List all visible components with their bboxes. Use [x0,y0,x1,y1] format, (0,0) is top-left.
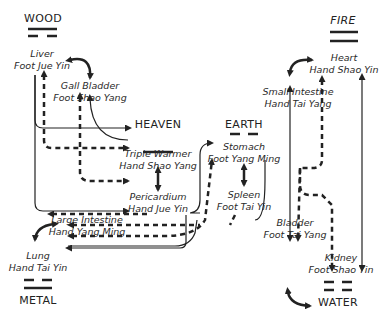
meridian-name: Hand Shao Yin [309,64,378,76]
organ-name: Large Intestine [49,214,126,226]
trigram-fire [330,32,358,41]
organ-name: Kidney [309,252,374,264]
organ-name: Stomach [208,141,281,153]
meridian-name: Foot Jue Yin [14,60,70,72]
organ-liver: Liver Foot Jue Yin [14,48,70,72]
element-wood: WOOD [24,12,62,25]
trigram-water [324,282,352,290]
organ-stomach: Stomach Foot Yang Ming [208,141,281,165]
meridian-name: Hand Jue Yin [128,203,188,215]
trigram-metal [24,280,52,288]
meridian-name: Hand Shao Yang [119,160,197,172]
trigram-wood [28,29,57,36]
meridian-name: Foot Yang Ming [208,153,281,165]
organ-triple-warmer: Triple Warmer Hand Shao Yang [119,148,197,172]
organ-name: Spleen [217,189,271,201]
organ-name: Liver [14,48,70,60]
organ-name: Lung [9,250,68,262]
meridian-name: Foot Shao Yin [309,264,374,276]
organ-bladder: Bladder Foot Tai Yang [264,217,327,241]
element-heaven: HEAVEN [135,118,182,131]
meridian-name: Hand Tai Yin [9,262,68,274]
organ-spleen: Spleen Foot Tai Yin [217,189,271,213]
meridian-name: Foot Tai Yin [217,201,271,213]
meridian-name: Hand Tai Yang [263,98,334,110]
meridian-name: Hand Yang Ming [49,226,126,238]
element-metal: METAL [19,294,56,307]
element-water: WATER [318,296,358,309]
element-fire: FIRE [330,14,355,27]
organ-large-intestine: Large Intestine Hand Yang Ming [49,214,126,238]
organ-kidney: Kidney Foot Shao Yin [309,252,374,276]
element-earth: EARTH [225,118,263,131]
organ-small-intestine: Small Intestine Hand Tai Yang [263,86,334,110]
organ-name: Triple Warmer [119,148,197,160]
organ-name: Bladder [264,217,327,229]
organ-name: Heart [309,52,378,64]
organ-name: Gall Bladder [53,80,126,92]
organ-heart: Heart Hand Shao Yin [309,52,378,76]
meridian-name: Foot Shao Yang [53,92,126,104]
organ-lung: Lung Hand Tai Yin [9,250,68,274]
organ-gall-bladder: Gall Bladder Foot Shao Yang [53,80,126,104]
meridian-name: Foot Tai Yang [264,229,327,241]
organ-pericardium: Pericardium Hand Jue Yin [128,191,188,215]
organ-name: Pericardium [128,191,188,203]
organ-name: Small Intestine [263,86,334,98]
